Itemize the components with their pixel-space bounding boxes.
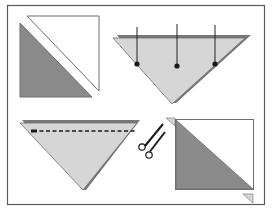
pin-head-icon xyxy=(212,61,217,66)
seam-start-mark xyxy=(31,130,37,133)
quilt-diagram xyxy=(0,0,273,214)
pin-head-icon xyxy=(134,61,139,66)
pin-head-icon xyxy=(174,63,179,68)
